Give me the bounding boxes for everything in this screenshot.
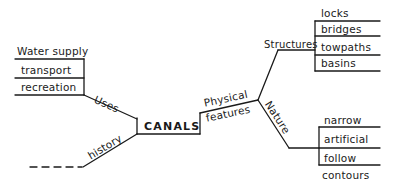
nature-item-contours: contours <box>322 170 369 181</box>
uses-item-transport: transport <box>21 65 71 76</box>
uses-item-water-supply: Water supply <box>17 46 88 57</box>
structures-item-bridges: bridges <box>321 24 362 35</box>
structures-item-locks: locks <box>321 8 349 19</box>
nature-item-follow: follow <box>324 153 356 164</box>
structures-branch-lines <box>258 21 380 100</box>
structures-item-basins: basins <box>321 58 356 69</box>
structures-item-towpaths: towpaths <box>321 42 371 53</box>
structures-branch-label: Structures <box>264 40 318 50</box>
nature-item-artificial: artificial <box>324 134 368 145</box>
nature-item-narrow: narrow <box>324 115 362 126</box>
uses-item-recreation: recreation <box>21 82 76 93</box>
mind-map-canvas: Water supply transport recreation Uses C… <box>0 0 395 187</box>
center-node-label: CANALS <box>144 121 200 132</box>
